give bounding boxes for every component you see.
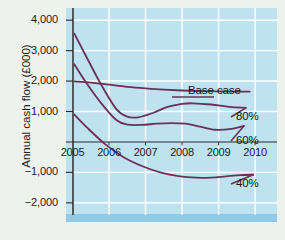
- x-tick-label: 2010: [231, 146, 279, 158]
- series-label-40: 40%: [236, 177, 259, 189]
- series-label-80: 80%: [236, 110, 259, 122]
- y-axis-title: Annual cash flow (£000): [20, 26, 32, 186]
- chart-root: 4,0003,0002,0001,000−1,000−2,000 2005200…: [0, 0, 285, 240]
- y-tick-label: 4,000: [4, 13, 58, 25]
- series-label-60: 60%: [236, 134, 259, 146]
- series-label-base-case: Base case: [188, 84, 241, 96]
- y-tick-label: −2,000: [4, 196, 58, 208]
